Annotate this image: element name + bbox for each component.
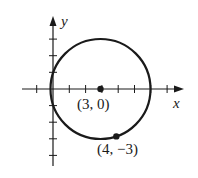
center-point <box>97 86 103 92</box>
y-axis-label: y <box>61 14 68 29</box>
y-axis-arrow-icon <box>50 16 57 26</box>
x-axis-label: x <box>173 96 180 111</box>
center-point-label: (3, 0) <box>77 97 110 112</box>
x-axis-arrow-icon <box>174 86 184 93</box>
circle-point-label: (4, −3) <box>97 142 138 157</box>
circle-point <box>113 133 119 139</box>
